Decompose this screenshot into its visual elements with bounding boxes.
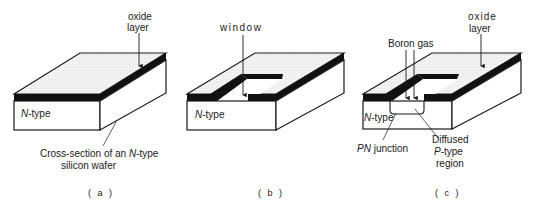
oxide-band-front-right-b xyxy=(248,94,276,101)
caption-c: ( c ) xyxy=(435,188,461,198)
ntype-label-c: N-type xyxy=(364,112,394,123)
ntype-label-a: N-type xyxy=(21,108,51,119)
caption-b: ( b ) xyxy=(258,188,284,198)
boron-gas-label-c: Boron gas xyxy=(388,38,434,49)
oxide-band-front-a xyxy=(14,94,100,101)
panel-c: oxide layer Boron gas N-type PN junction… xyxy=(357,11,521,198)
semiconductor-diffusion-diagram: oxide layer N-type Cross-section of an N… xyxy=(0,0,536,209)
oxide-label-line1-a: oxide xyxy=(128,11,152,22)
oxide-band-front-right-c xyxy=(424,94,452,101)
diffused-label-line2-c: P-type xyxy=(434,146,463,157)
oxide-label-line2-c: layer xyxy=(469,23,491,34)
pn-junction-label-c: PN junction xyxy=(357,143,408,154)
diffused-label-line1-c: Diffused xyxy=(432,134,469,145)
cross-section-label-line2-a: silicon wafer xyxy=(61,160,117,171)
window-wall-back-c xyxy=(417,74,459,79)
panel-b: window N-type ( b ) xyxy=(187,22,344,198)
oxide-label-line1-c: oxide xyxy=(468,11,497,22)
panel-a: oxide layer N-type Cross-section of an N… xyxy=(14,11,166,198)
window-wall-back-b xyxy=(241,74,283,79)
ntype-label-b: N-type xyxy=(195,109,225,120)
window-label-b: window xyxy=(219,22,262,33)
caption-a: ( a ) xyxy=(88,188,114,198)
cross-section-label-line1-a: Cross-section of an N-type xyxy=(40,148,159,159)
diagram-canvas: oxide layer N-type Cross-section of an N… xyxy=(0,0,536,209)
oxide-label-line2-a: layer xyxy=(127,22,149,33)
diffused-label-line3-c: region xyxy=(436,158,464,169)
